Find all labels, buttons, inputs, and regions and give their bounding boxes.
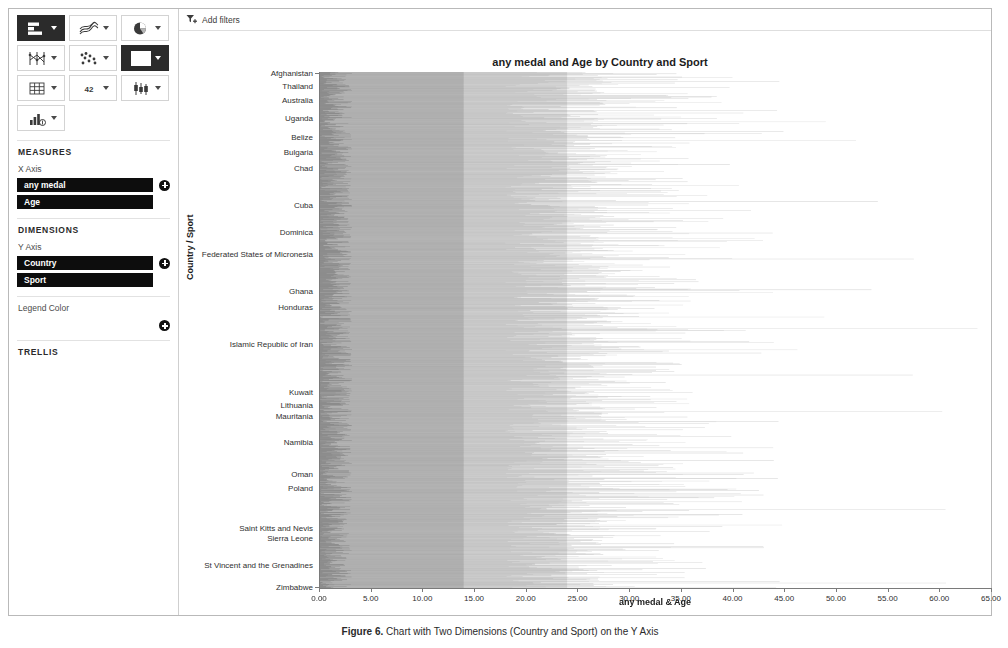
x-axis-tick — [526, 588, 527, 592]
y-axis-line — [319, 72, 320, 588]
y-axis-tick-label: Sierra Leone — [267, 534, 313, 543]
svg-text:42: 42 — [84, 85, 93, 94]
y-axis-tick-label: Chad — [294, 164, 313, 173]
add-legend-color-button[interactable] — [159, 320, 170, 331]
heatmap-chart-icon — [130, 49, 152, 67]
x-axis-pill-age[interactable]: Age — [17, 195, 153, 209]
y-axis-tick-label: Poland — [288, 483, 313, 492]
x-axis-field-label: X Axis — [18, 164, 170, 174]
divider — [17, 340, 170, 341]
measures-section-title: MEASURES — [18, 147, 170, 157]
add-filter-icon[interactable] — [186, 11, 197, 29]
figure-caption-text: Chart with Two Dimensions (Country and S… — [386, 626, 658, 637]
divider — [17, 218, 170, 219]
box-plot-icon — [130, 79, 152, 97]
y-axis-tick — [315, 73, 319, 74]
table-view-button[interactable] — [17, 75, 65, 101]
x-axis-tick — [629, 588, 630, 592]
scatter-plot-chevron-down-icon[interactable] — [103, 56, 109, 60]
parallel-coordinates-chart-chevron-down-icon[interactable] — [51, 56, 57, 60]
add-filters-label[interactable]: Add filters — [202, 15, 240, 25]
x-axis-tick — [939, 588, 940, 592]
x-axis-tick — [577, 588, 578, 592]
kpi-number-view-button[interactable]: 42 — [69, 75, 117, 101]
pie-chart-button[interactable] — [121, 15, 169, 41]
chart-panel: Add filters any medal and Age by Country… — [179, 9, 991, 615]
heatmap-chart-chevron-down-icon[interactable] — [155, 56, 161, 60]
heatmap-chart-button[interactable] — [121, 45, 169, 71]
line-chart-icon — [78, 19, 100, 37]
y-axis-tick-label: Afghanistan — [271, 69, 313, 78]
kpi-number-view-chevron-down-icon[interactable] — [103, 86, 109, 90]
visualization-app-window: 42 MEASURES X Axis any medal Age DIMENSI… — [8, 8, 992, 616]
x-axis-tick — [888, 588, 889, 592]
legend-color-field-label: Legend Color — [18, 303, 170, 313]
box-plot-button[interactable] — [121, 75, 169, 101]
y-axis-tick-label: Thailand — [282, 81, 313, 90]
x-axis-pill-any-medal[interactable]: any medal — [17, 178, 153, 192]
pie-chart-chevron-down-icon[interactable] — [155, 26, 161, 30]
x-axis-tick — [784, 588, 785, 592]
divider — [17, 140, 170, 141]
x-axis-tick — [836, 588, 837, 592]
x-axis-pill-row-1: Age — [17, 195, 170, 209]
combination-chart-icon — [26, 109, 48, 127]
box-plot-chevron-down-icon[interactable] — [155, 86, 161, 90]
chart-title: any medal and Age by Country and Sport — [319, 56, 881, 68]
figure-caption-prefix: Figure — [342, 626, 373, 637]
add-y-axis-dimension-button[interactable] — [159, 258, 170, 269]
y-axis-tick-label: Saint Kitts and Nevis — [239, 523, 313, 532]
y-axis-tick-label: Dominica — [280, 227, 313, 236]
configuration-panel: 42 MEASURES X Axis any medal Age DIMENSI… — [9, 9, 179, 615]
y-axis-tick-label: Mauritania — [276, 412, 313, 421]
y-axis-tick-label: Belize — [291, 132, 313, 141]
figure-caption: Figure 6. Chart with Two Dimensions (Cou… — [8, 626, 992, 637]
x-axis-tick — [681, 588, 682, 592]
bars-layer — [319, 72, 991, 588]
y-axis-tick-label: Honduras — [278, 302, 313, 311]
legend-color-row — [17, 320, 170, 331]
table-view-chevron-down-icon[interactable] — [51, 86, 57, 90]
y-axis-tick-label: Lithuania — [281, 401, 313, 410]
parallel-coordinates-chart-icon — [26, 49, 48, 67]
scatter-plot-icon — [78, 49, 100, 67]
x-axis-pill-row-0: any medal — [17, 178, 170, 192]
table-view-icon — [26, 79, 48, 97]
x-axis-tick — [422, 588, 423, 592]
x-axis-tick — [733, 588, 734, 592]
line-chart-button[interactable] — [69, 15, 117, 41]
x-axis-title: any medal & Age — [319, 597, 991, 607]
combination-chart-chevron-down-icon[interactable] — [51, 116, 57, 120]
x-axis-line — [319, 588, 991, 589]
bar-chart-icon — [26, 19, 48, 37]
y-axis-tick-label: Ghana — [289, 286, 313, 295]
x-axis-tick — [319, 588, 320, 592]
y-axis-tick-label: Australia — [282, 96, 313, 105]
filter-bar: Add filters — [179, 9, 991, 31]
dimensions-section-title: DIMENSIONS — [18, 225, 170, 235]
bar-chart-chevron-down-icon[interactable] — [51, 26, 57, 30]
combination-chart-button[interactable] — [17, 105, 65, 131]
chart-type-toolbar: 42 — [17, 15, 170, 131]
parallel-coordinates-chart-button[interactable] — [17, 45, 65, 71]
plot-region[interactable]: AfghanistanAustraliaBelizeBulgariaChadCu… — [319, 72, 991, 588]
x-axis-tick — [991, 588, 992, 592]
scatter-plot-button[interactable] — [69, 45, 117, 71]
add-x-axis-measure-button[interactable] — [159, 180, 170, 191]
y-axis-pill-country[interactable]: Country — [17, 256, 153, 270]
bar-chart-button[interactable] — [17, 15, 65, 41]
y-axis-tick-label: Namibia — [284, 438, 313, 447]
y-axis-tick-label: St Vincent and the Grenadines — [204, 560, 313, 569]
y-axis-pill-row-0: Country — [17, 256, 170, 270]
y-axis-tick-label: Uganda — [285, 114, 313, 123]
figure-caption-number: 6. — [375, 626, 383, 637]
divider — [17, 296, 170, 297]
y-axis-tick-label: Bulgaria — [284, 148, 313, 157]
y-axis-tick-label: Kuwait — [289, 387, 313, 396]
line-chart-chevron-down-icon[interactable] — [103, 26, 109, 30]
x-axis-tick — [474, 588, 475, 592]
y-axis-tick-label: Zimbabwe — [276, 583, 313, 592]
y-axis-tick-label: Cuba — [294, 201, 313, 210]
y-axis-field-label: Y Axis — [18, 242, 170, 252]
y-axis-pill-sport[interactable]: Sport — [17, 273, 153, 287]
